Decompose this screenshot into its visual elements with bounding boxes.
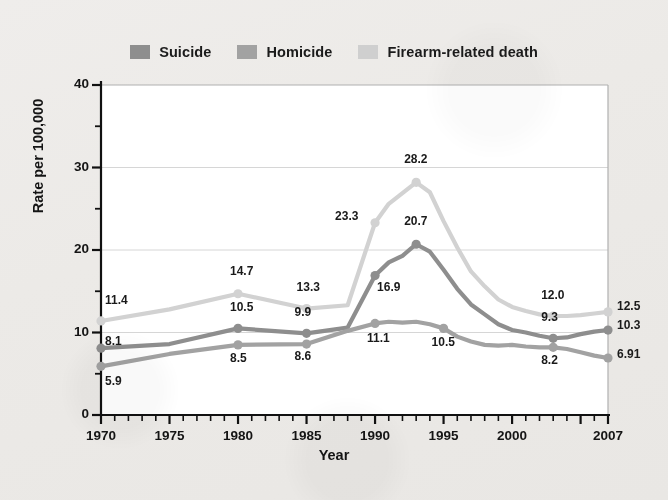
- x-tick-label-1995: 1995: [414, 428, 474, 443]
- point-value-label: 5.9: [105, 374, 122, 388]
- data-point-marker: [370, 218, 379, 227]
- point-value-label: 12.0: [541, 288, 564, 302]
- point-value-label: 9.9: [295, 305, 312, 319]
- data-point-marker: [412, 178, 421, 187]
- data-point-marker: [603, 353, 612, 362]
- point-value-label: 16.9: [377, 280, 400, 294]
- data-point-marker: [233, 324, 242, 333]
- y-tick-label-20: 20: [55, 241, 89, 256]
- point-value-label: 20.7: [404, 214, 427, 228]
- point-value-label: 10.5: [432, 335, 455, 349]
- point-value-label: 12.5: [617, 299, 640, 313]
- data-point-marker: [302, 329, 311, 338]
- y-tick-label-0: 0: [55, 406, 89, 421]
- y-tick-label-10: 10: [55, 324, 89, 339]
- data-point-marker: [439, 324, 448, 333]
- x-axis-title: Year: [0, 447, 668, 463]
- point-value-label: 8.6: [295, 349, 312, 363]
- point-value-label: 8.1: [105, 334, 122, 348]
- point-value-label: 6.91: [617, 347, 640, 361]
- y-axis-title: Rate per 100,000: [30, 56, 46, 256]
- y-tick-label-40: 40: [55, 76, 89, 91]
- data-point-marker: [412, 240, 421, 249]
- point-value-label: 10.5: [230, 300, 253, 314]
- x-tick-label-1980: 1980: [208, 428, 268, 443]
- point-value-label: 14.7: [230, 264, 253, 278]
- point-value-label: 11.1: [367, 331, 390, 345]
- data-point-marker: [549, 343, 558, 352]
- point-value-label: 11.4: [105, 293, 128, 307]
- data-point-marker: [370, 319, 379, 328]
- x-tick-label-1985: 1985: [277, 428, 337, 443]
- y-tick-label-30: 30: [55, 159, 89, 174]
- point-value-label: 28.2: [404, 152, 427, 166]
- x-tick-label-2000: 2000: [482, 428, 542, 443]
- point-value-label: 9.3: [541, 310, 558, 324]
- data-point-marker: [603, 307, 612, 316]
- data-point-marker: [549, 334, 558, 343]
- x-tick-label-1975: 1975: [140, 428, 200, 443]
- point-value-label: 10.3: [617, 318, 640, 332]
- x-tick-label-1990: 1990: [345, 428, 405, 443]
- chart-figure: Suicide Homicide Firearm-related death R…: [0, 0, 668, 500]
- x-tick-label-1970: 1970: [71, 428, 131, 443]
- point-value-label: 23.3: [335, 209, 358, 223]
- data-point-marker: [233, 340, 242, 349]
- data-point-marker: [302, 339, 311, 348]
- data-point-marker: [233, 289, 242, 298]
- data-point-marker: [603, 325, 612, 334]
- point-value-label: 13.3: [297, 280, 320, 294]
- plot-area: [0, 0, 668, 500]
- point-value-label: 8.2: [541, 353, 558, 367]
- data-point-marker: [96, 362, 105, 371]
- point-value-label: 8.5: [230, 351, 247, 365]
- x-tick-label-2007: 2007: [578, 428, 638, 443]
- data-point-marker: [96, 316, 105, 325]
- plot-svg: [0, 0, 668, 500]
